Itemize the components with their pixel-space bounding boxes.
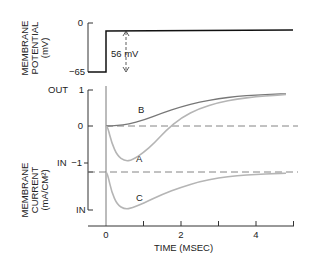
current-title-line3: (mA/CM²): [39, 169, 50, 210]
trace-A: [106, 95, 286, 161]
x-axis-title: TIME (MSEC): [154, 242, 213, 253]
current-tick-label-minus1: −1: [71, 157, 82, 168]
trace-label-C: C: [136, 192, 143, 203]
potential-axis-title: MEMBRANE POTENTIAL (mV): [19, 21, 50, 76]
current-traces: [106, 94, 286, 209]
trace-label-A: A: [136, 153, 143, 164]
step-amplitude-label: 56 mV: [111, 48, 139, 59]
time-ticks: [106, 221, 294, 226]
x-tick-label-4: 4: [253, 229, 258, 240]
potential-title-line3: (mV): [39, 38, 50, 59]
trace-C: [106, 172, 286, 209]
x-tick-label-2: 2: [178, 229, 183, 240]
in-label-2: IN: [76, 204, 86, 215]
current-tick-label-1: 1: [79, 84, 84, 95]
figure: MEMBRANE POTENTIAL (mV) MEMBRANE CURRENT…: [0, 0, 313, 268]
in-label-1: IN: [57, 157, 67, 168]
current-tick-label-0: 0: [78, 120, 83, 131]
potential-tick-label-65: −65: [69, 66, 85, 77]
x-tick-label-0: 0: [103, 229, 108, 240]
out-label: OUT: [48, 84, 68, 95]
current-axis-title: MEMBRANE CURRENT (mA/CM²): [19, 163, 50, 218]
trace-label-B: B: [138, 104, 144, 115]
potential-tick-label-0: 0: [78, 17, 83, 28]
